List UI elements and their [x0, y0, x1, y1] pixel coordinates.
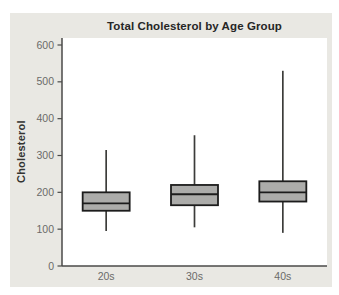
iqr-box: [83, 192, 130, 210]
svg-text:0: 0: [48, 260, 54, 272]
x-tick-label: 40s: [274, 270, 291, 282]
chart-card: Total Cholesterol by Age Group Cholester…: [10, 13, 332, 287]
x-tick-label: 20s: [98, 270, 115, 282]
svg-text:600: 600: [36, 39, 54, 51]
svg-text:300: 300: [36, 149, 54, 161]
svg-text:400: 400: [36, 112, 54, 124]
svg-text:200: 200: [36, 186, 54, 198]
svg-text:500: 500: [36, 75, 54, 87]
svg-text:100: 100: [36, 223, 54, 235]
boxplot-canvas: 010020030040050060020s30s40s: [10, 13, 332, 287]
screenshot-stage: Total Cholesterol by Age Group Cholester…: [0, 0, 339, 295]
x-tick-label: 30s: [186, 270, 203, 282]
y-axis-ticks: 0100200300400500600: [36, 39, 62, 272]
